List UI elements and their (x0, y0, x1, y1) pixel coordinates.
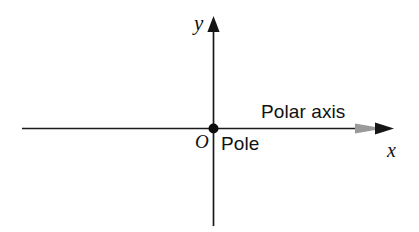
x-axis-label: x (387, 140, 396, 160)
figure-background (0, 0, 419, 232)
pole-label: Pole (221, 134, 259, 153)
figure-canvas (0, 0, 419, 232)
polar-axes-figure: y x O Pole Polar axis (0, 0, 419, 232)
origin-label: O (195, 132, 209, 151)
polar-axis-label: Polar axis (261, 102, 345, 121)
y-axis-label: y (194, 13, 203, 34)
pole-point-marker (209, 124, 219, 134)
